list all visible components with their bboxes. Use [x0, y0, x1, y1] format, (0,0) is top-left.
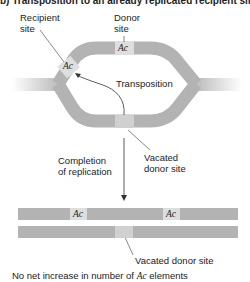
dna-right-arm — [190, 78, 242, 91]
recipient-ac-label: Ac — [63, 61, 73, 72]
completion-label: Completionof replication — [58, 155, 112, 177]
recipient-site-label: Recipientsite — [20, 12, 60, 34]
transposition-label: Transposition — [116, 78, 173, 89]
dna-strand-top — [18, 208, 238, 220]
dna-left-arm — [12, 78, 64, 91]
donor-site-label: Donorsite — [114, 12, 140, 34]
vacated-box-bottom — [115, 226, 133, 238]
vacated-donor-site-label-bottom: Vacated donor site — [135, 255, 214, 266]
footer-caption: No net increase in number of Ac elements — [12, 270, 188, 282]
ac-label-2: Ac — [166, 209, 176, 220]
vacated-donor-site-label-top: Vacateddonor site — [144, 152, 186, 174]
vacated-box-top — [115, 115, 134, 128]
ac-label-1: Ac — [73, 209, 83, 220]
donor-ac-label: Ac — [118, 43, 128, 54]
